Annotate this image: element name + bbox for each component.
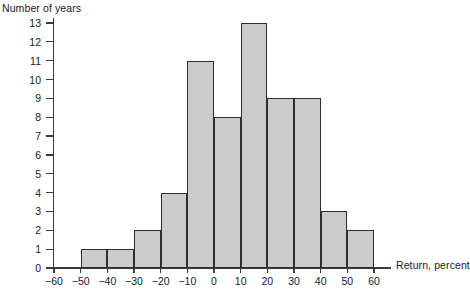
y-axis-tick-label: 6 xyxy=(11,150,41,160)
x-axis-tick xyxy=(133,268,134,273)
y-axis-tick xyxy=(46,211,54,212)
x-axis-tick xyxy=(347,268,348,273)
x-axis-tick xyxy=(293,268,294,273)
histogram-bar xyxy=(267,98,294,268)
x-axis-tick xyxy=(373,268,374,273)
y-axis-title: Number of years xyxy=(2,2,81,14)
y-axis-tick xyxy=(46,154,54,155)
x-axis-tick xyxy=(187,268,188,273)
histogram-bar xyxy=(321,211,348,268)
x-axis-tick xyxy=(160,268,161,273)
x-axis-tick xyxy=(213,268,214,273)
x-axis-tick xyxy=(80,268,81,273)
histogram-bar xyxy=(347,230,374,268)
y-axis-tick-label: 8 xyxy=(11,112,41,122)
y-axis-tick-label: 3 xyxy=(11,206,41,216)
x-axis-tick xyxy=(320,268,321,273)
x-axis-title: Return, percent xyxy=(396,259,470,271)
histogram-bar xyxy=(187,61,214,268)
x-axis-tick xyxy=(53,268,54,273)
y-axis-tick xyxy=(46,41,54,42)
x-axis-tick xyxy=(107,268,108,273)
y-axis-tick-label: 0 xyxy=(11,263,41,273)
y-axis-tick xyxy=(46,135,54,136)
y-axis-tick-label: 5 xyxy=(11,169,41,179)
x-axis-tick xyxy=(267,268,268,273)
histogram-bar xyxy=(294,98,321,268)
x-axis-tick xyxy=(240,268,241,273)
histogram-bars xyxy=(54,23,374,268)
x-axis-tick-label: 60 xyxy=(354,276,394,287)
y-axis-tick xyxy=(46,60,54,61)
y-axis-tick-label: 2 xyxy=(11,225,41,235)
y-axis-tick xyxy=(46,22,54,23)
histogram-bar xyxy=(161,193,188,268)
y-axis-tick xyxy=(46,173,54,174)
y-axis-tick-label: 4 xyxy=(11,188,41,198)
histogram-bar xyxy=(214,117,241,268)
histogram-bar xyxy=(81,249,108,268)
y-axis-tick xyxy=(46,79,54,80)
histogram-bar xyxy=(107,249,134,268)
y-axis-tick xyxy=(46,192,54,193)
y-axis-tick-label: 12 xyxy=(11,37,41,47)
y-axis-tick-label: 9 xyxy=(11,93,41,103)
histogram-bar xyxy=(241,23,268,268)
y-axis-tick xyxy=(46,98,54,99)
y-axis-tick-label: 13 xyxy=(11,18,41,28)
y-axis-tick-label: 7 xyxy=(11,131,41,141)
histogram-bar xyxy=(134,230,161,268)
y-axis-tick-label: 11 xyxy=(11,56,41,66)
y-axis-tick xyxy=(46,117,54,118)
y-axis-tick xyxy=(46,230,54,231)
y-axis-tick xyxy=(46,249,54,250)
y-axis-tick-label: 10 xyxy=(11,75,41,85)
y-axis-tick-label: 1 xyxy=(11,244,41,254)
